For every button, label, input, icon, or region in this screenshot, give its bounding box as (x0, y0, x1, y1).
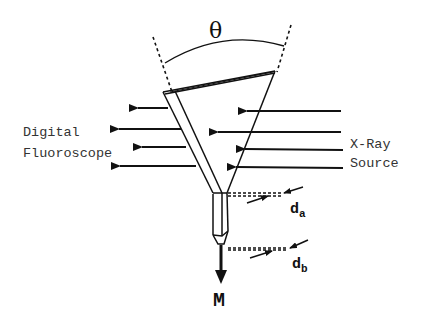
dimension-da-label: da (290, 201, 306, 220)
fluoroscope-label-line2: Fluoroscope (23, 146, 112, 161)
motion-label: M (213, 289, 225, 312)
xray-wedge-diagram: θ da (0, 0, 427, 324)
dimension-db-label: db (292, 256, 308, 275)
angle-arc (165, 40, 284, 63)
incoming-rays (218, 111, 343, 168)
fluoroscope-label-line1: Digital (23, 125, 80, 140)
rod (213, 193, 228, 244)
xray-source-label-line1: X-Ray (350, 137, 391, 152)
xray-source-label-line2: Source (350, 156, 399, 171)
angle-label: θ (209, 18, 222, 43)
motion-arrow (215, 245, 227, 284)
